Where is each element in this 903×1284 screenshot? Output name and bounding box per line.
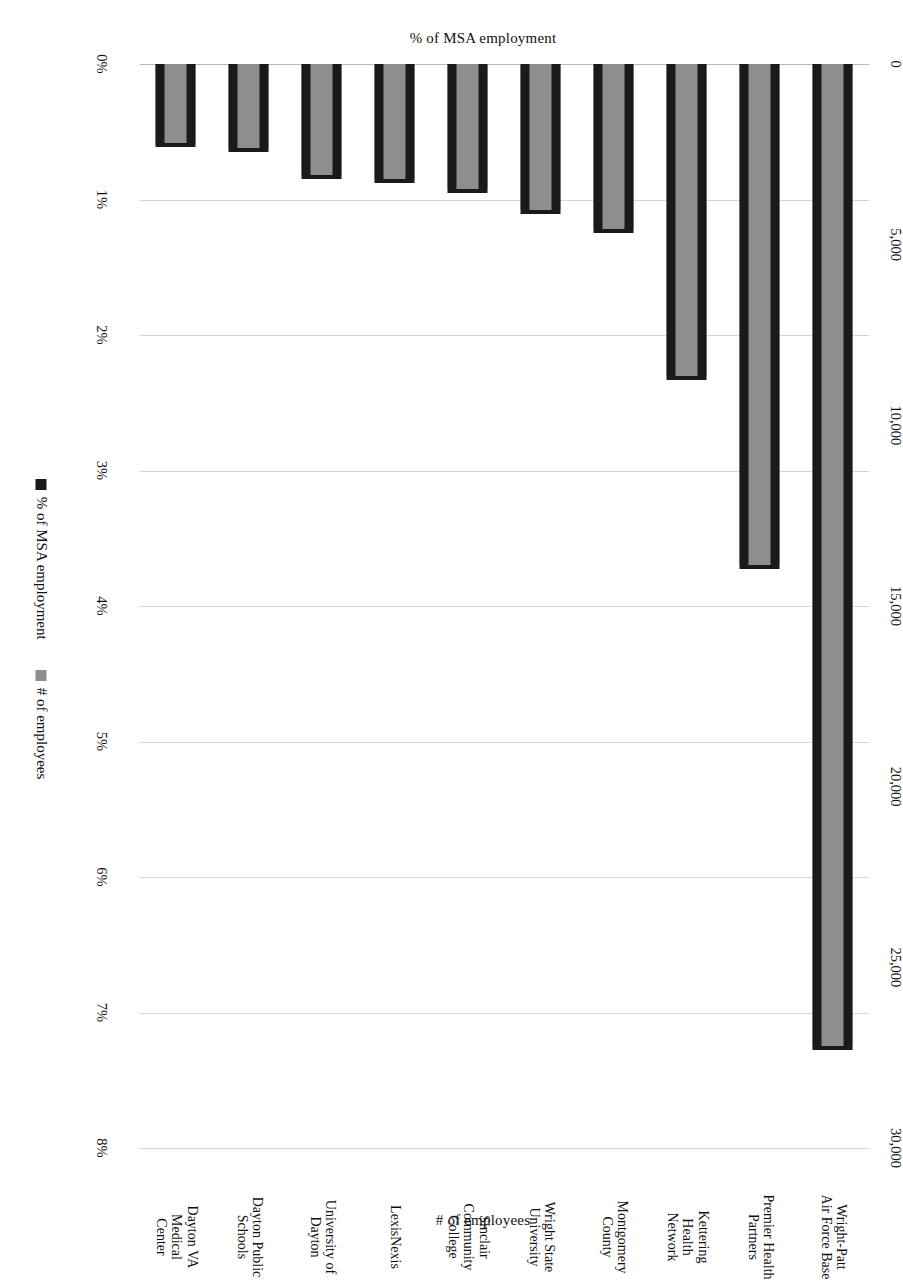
legend-label: # of employees xyxy=(32,688,49,780)
plot-area: 0%1%2%3%4%5%6%7%8% 05,00010,00015,00020,… xyxy=(139,64,869,1148)
bar-group xyxy=(723,64,796,1148)
bar-group xyxy=(650,64,723,1148)
right-axis-tick-label: 10,000 xyxy=(886,405,903,445)
legend-swatch-icon xyxy=(35,479,46,490)
bar[interactable] xyxy=(667,64,707,376)
category-label: Wright-Patt Air Force Base xyxy=(817,1162,848,1284)
category-label: Sinclair Community College xyxy=(444,1162,491,1284)
left-axis-tick-label: 1% xyxy=(92,190,109,209)
bar-end-cap xyxy=(156,143,196,147)
bar-group xyxy=(212,64,285,1148)
bar-group xyxy=(285,64,358,1148)
bar-series-group xyxy=(139,64,869,1148)
legend-swatch-icon xyxy=(35,670,46,681)
right-axis-tick-label: 5,000 xyxy=(886,228,903,261)
left-axis-tick-label: 8% xyxy=(92,1138,109,1157)
bar[interactable] xyxy=(448,64,488,189)
bar-end-cap xyxy=(375,179,415,183)
left-axis-tick-label: 4% xyxy=(92,596,109,615)
bar[interactable] xyxy=(229,64,269,148)
legend-item[interactable]: # of employees xyxy=(32,670,49,780)
right-axis-tick-label: 15,000 xyxy=(886,586,903,626)
right-axis-tick-label: 0 xyxy=(886,60,903,67)
legend-label: % of MSA employment xyxy=(32,497,49,640)
bar-end-cap xyxy=(813,1046,853,1050)
chart-legend: % of MSA employment# of employees xyxy=(32,0,49,1258)
bar-group xyxy=(358,64,431,1148)
left-axis-tick-label: 0% xyxy=(92,54,109,73)
bar-end-cap xyxy=(302,175,342,179)
bar-group xyxy=(504,64,577,1148)
gridline xyxy=(139,1148,869,1149)
bar[interactable] xyxy=(521,64,561,210)
category-label: LexisNexis xyxy=(387,1162,403,1284)
category-label: Wright State University xyxy=(525,1162,556,1284)
right-axis-tick-label: 25,000 xyxy=(886,947,903,987)
left-axis-tick-label: 5% xyxy=(92,732,109,751)
bar-end-cap xyxy=(667,376,707,380)
bar-end-cap xyxy=(448,189,488,193)
category-label: Dayton VA Medical Center xyxy=(152,1162,199,1284)
right-axis-tick-label: 20,000 xyxy=(886,767,903,807)
left-axis-tick-label: 7% xyxy=(92,1003,109,1022)
bar[interactable] xyxy=(740,64,780,565)
bar[interactable] xyxy=(302,64,342,175)
bar[interactable] xyxy=(594,64,634,229)
category-label: Premier Health Partners xyxy=(744,1162,775,1284)
left-axis-tick-label: 6% xyxy=(92,867,109,886)
bar-group xyxy=(431,64,504,1148)
right-axis-tick-label: 30,000 xyxy=(886,1128,903,1168)
left-axis-tick-label: 2% xyxy=(92,325,109,344)
bar-end-cap xyxy=(229,148,269,152)
category-label: Montgomery County xyxy=(598,1162,629,1284)
left-axis-tick-label: 3% xyxy=(92,461,109,480)
legend-item[interactable]: % of MSA employment xyxy=(32,479,49,640)
category-label: Kettering Health Network xyxy=(663,1162,710,1284)
category-label: University of Dayton xyxy=(306,1162,337,1284)
bar[interactable] xyxy=(813,64,853,1046)
bar[interactable] xyxy=(375,64,415,179)
bar-group xyxy=(139,64,212,1148)
bar[interactable] xyxy=(156,64,196,143)
left-axis-title: % of MSA employment xyxy=(383,30,583,47)
bar-end-cap xyxy=(521,210,561,214)
bar-group xyxy=(796,64,869,1148)
bar-group xyxy=(577,64,650,1148)
category-label: Dayton Public Schools xyxy=(233,1162,264,1284)
bar-end-cap xyxy=(740,565,780,569)
bar-end-cap xyxy=(594,229,634,233)
